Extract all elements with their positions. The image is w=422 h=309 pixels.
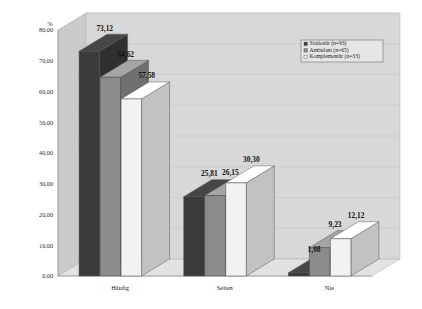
bar-value-label: 64,62 xyxy=(117,50,134,59)
legend-item-label: Komplementär (n=33) xyxy=(310,53,360,60)
bar-value-label: 1,08 xyxy=(308,245,321,254)
y-axis-tick-label: 70,00 xyxy=(39,57,53,64)
legend-swatch xyxy=(304,55,307,58)
bar-front-face xyxy=(205,196,226,276)
y-axis-tick-label: 0,00 xyxy=(42,272,53,279)
y-axis-tick-label: 40,00 xyxy=(39,149,53,156)
bar-front-face xyxy=(226,183,247,276)
bar-value-label: 57,58 xyxy=(138,71,155,80)
x-axis-category-label: Nie xyxy=(325,284,334,291)
y-axis-title: % xyxy=(47,20,53,27)
bar-front-face xyxy=(79,51,100,276)
bar-front-face xyxy=(184,197,205,276)
bar-side-face xyxy=(246,166,274,276)
bar-value-label: 26,15 xyxy=(222,168,239,177)
y-axis-tick-label: 30,00 xyxy=(39,180,53,187)
legend: Stationär (n=93)Ambulant (n=65)Komplemen… xyxy=(301,40,383,62)
bar-häufig-2 xyxy=(121,82,170,276)
legend-swatch xyxy=(304,49,307,52)
y-axis-tick-label: 10,00 xyxy=(39,242,53,249)
bar-front-face xyxy=(121,99,142,276)
bar-value-label: 30,30 xyxy=(243,155,260,164)
bar-front-face xyxy=(330,239,351,276)
legend-swatch xyxy=(304,42,307,45)
bar-value-label: 73,12 xyxy=(96,24,113,33)
y-axis-tick-label: 80,00 xyxy=(39,26,53,33)
x-axis-category-label: Häufig xyxy=(111,284,130,291)
bar-chart-3d: 0,0010,0020,0030,0040,0050,0060,0070,008… xyxy=(0,0,422,309)
x-axis-category-label: Selten xyxy=(217,284,234,291)
bar-value-label: 25,81 xyxy=(201,169,218,178)
bar-front-face xyxy=(100,77,121,276)
bar-side-face xyxy=(142,82,170,276)
bar-selten-2 xyxy=(226,166,275,276)
x-axis-category-labels: HäufigSeltenNie xyxy=(111,284,334,291)
y-axis-tick-label: 20,00 xyxy=(39,211,53,218)
bar-front-face xyxy=(288,273,309,276)
y-axis-tick-label: 60,00 xyxy=(39,88,53,95)
bar-value-label: 9,23 xyxy=(329,220,342,229)
bar-value-label: 12,12 xyxy=(348,211,365,220)
y-axis-tick-label: 50,00 xyxy=(39,119,53,126)
chart-container: 0,0010,0020,0030,0040,0050,0060,0070,008… xyxy=(0,0,422,309)
